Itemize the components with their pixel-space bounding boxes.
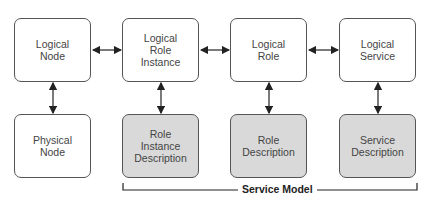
physical-node-label: Physical Node [33,134,72,158]
logical-node-label: Logical Node [36,38,69,62]
logical-role-box: Logical Role [230,18,307,82]
service-description-box: Service Description [339,114,416,178]
role-description-box: Role Description [230,114,307,178]
logical-role-instance-box: Logical Role Instance [122,18,199,82]
logical-node-box: Logical Node [14,18,91,82]
service-description-label: Service Description [351,134,404,158]
logical-service-box: Logical Service [339,18,416,82]
logical-service-label: Logical Service [360,38,395,62]
role-instance-description-box: Role Instance Description [122,114,199,178]
logical-role-label: Logical Role [252,38,285,62]
service-model-label: Service Model [238,183,317,195]
role-instance-description-label: Role Instance Description [134,128,187,164]
physical-node-box: Physical Node [14,114,91,178]
logical-role-instance-label: Logical Role Instance [141,32,181,68]
role-description-label: Role Description [242,134,295,158]
